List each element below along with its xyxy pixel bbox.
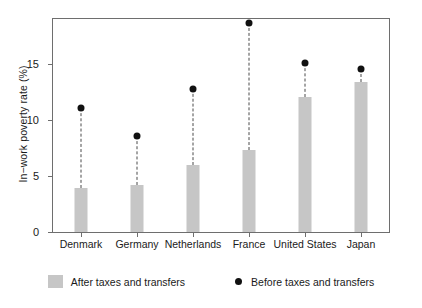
x-axis-label-netherlands: Netherlands — [165, 238, 222, 250]
legend-label-before: Before taxes and transfers — [251, 276, 374, 288]
connector-line — [305, 63, 306, 98]
x-tick-mark — [361, 232, 362, 237]
dot-germany[interactable] — [134, 132, 141, 139]
x-axis-label-japan: Japan — [347, 238, 376, 250]
chart-container: 051015 In−work poverty rate (%) DenmarkG… — [0, 0, 422, 308]
x-axis-label-denmark: Denmark — [60, 238, 103, 250]
bar-france[interactable] — [243, 150, 256, 232]
x-tick-mark — [81, 232, 82, 237]
y-tick-mark — [48, 120, 53, 121]
x-tick-mark — [137, 232, 138, 237]
chart-legend: After taxes and transfers Before taxes a… — [0, 275, 422, 288]
dot-japan[interactable] — [358, 66, 365, 73]
dot-denmark[interactable] — [78, 104, 85, 111]
x-axis-label-united-states: United States — [273, 238, 336, 250]
bar-united-states[interactable] — [299, 97, 312, 232]
bar-germany[interactable] — [131, 185, 144, 232]
black-dot-marker-icon — [235, 278, 242, 285]
x-axis-label-france: France — [233, 238, 266, 250]
gray-square-swatch-icon — [48, 275, 63, 288]
connector-line — [249, 23, 250, 150]
y-tick-mark — [48, 232, 53, 233]
connector-line — [193, 89, 194, 165]
dot-france[interactable] — [246, 20, 253, 27]
x-tick-mark — [249, 232, 250, 237]
connector-line — [137, 136, 138, 185]
plot-inner: 051015 — [53, 19, 389, 232]
y-tick-label: 5 — [33, 170, 39, 182]
legend-label-after: After taxes and transfers — [71, 276, 185, 288]
x-tick-mark — [193, 232, 194, 237]
plot-area: 051015 In−work poverty rate (%) — [52, 18, 390, 233]
bar-denmark[interactable] — [75, 188, 88, 232]
y-axis-title: In−work poverty rate (%) — [17, 65, 29, 182]
bar-netherlands[interactable] — [187, 165, 200, 232]
y-tick-mark — [48, 176, 53, 177]
bar-japan[interactable] — [355, 82, 368, 232]
y-tick-mark — [48, 64, 53, 65]
legend-item-before: Before taxes and transfers — [231, 276, 374, 288]
dot-netherlands[interactable] — [190, 85, 197, 92]
x-tick-mark — [305, 232, 306, 237]
x-axis-label-germany: Germany — [115, 238, 158, 250]
dot-united-states[interactable] — [302, 59, 309, 66]
y-tick-label: 0 — [33, 226, 39, 238]
connector-line — [81, 108, 82, 189]
legend-item-after: After taxes and transfers — [48, 275, 185, 288]
